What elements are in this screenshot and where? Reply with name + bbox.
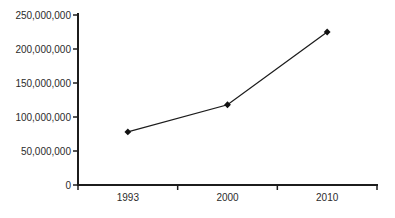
line-chart-figure: 050,000,000100,000,000150,000,000200,000… xyxy=(0,0,395,218)
y-tick-label: 50,000,000 xyxy=(21,146,71,157)
y-tick-label: 0 xyxy=(65,180,71,191)
y-tick-label: 150,000,000 xyxy=(15,78,71,89)
y-tick-label: 200,000,000 xyxy=(15,44,71,55)
x-tick-label: 2000 xyxy=(216,192,239,203)
chart-canvas: 050,000,000100,000,000150,000,000200,000… xyxy=(0,0,395,218)
y-tick-label: 100,000,000 xyxy=(15,112,71,123)
x-tick-label: 2010 xyxy=(316,192,339,203)
x-tick-label: 1993 xyxy=(117,192,140,203)
y-tick-label: 250,000,000 xyxy=(15,10,71,21)
